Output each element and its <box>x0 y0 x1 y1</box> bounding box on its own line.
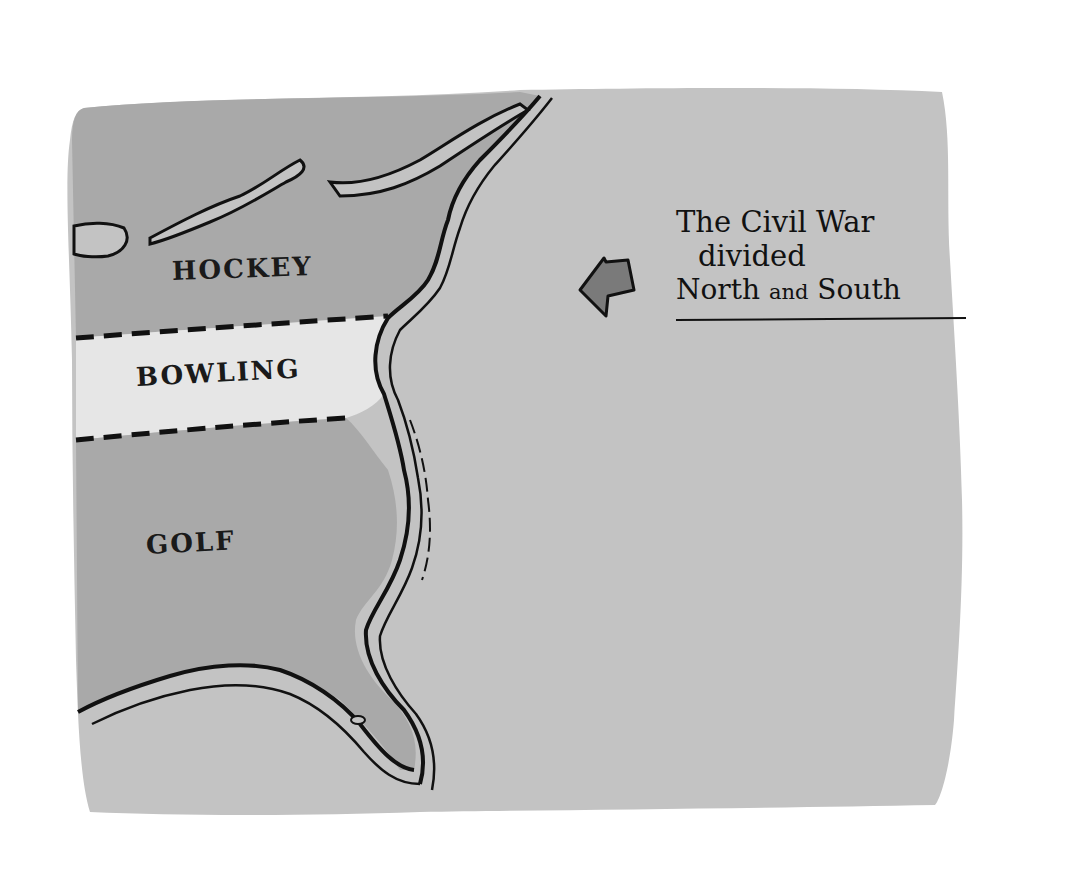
map-illustration: HOCKEY BOWLING GOLF The Civil War divide… <box>0 0 1075 879</box>
caption-line-1: The Civil War <box>676 205 901 239</box>
region-label-hockey: HOCKEY <box>171 251 313 286</box>
annotation-caption: The Civil War divided North and South <box>676 205 901 309</box>
region-label-golf: GOLF <box>145 525 236 560</box>
lake-3 <box>74 223 127 257</box>
lake-okeechobee <box>351 716 365 724</box>
caption-word-south: South <box>817 273 900 306</box>
caption-line-3: North and South <box>676 273 901 309</box>
caption-line-2: divided <box>676 239 901 273</box>
caption-word-and: and <box>769 280 809 304</box>
map-graphic <box>0 0 1075 879</box>
caption-word-north: North <box>676 273 760 306</box>
